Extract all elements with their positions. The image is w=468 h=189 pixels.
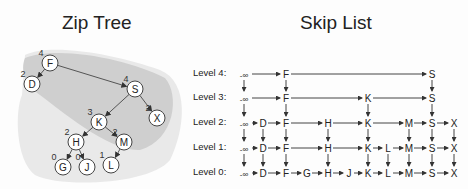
skip-node: F — [283, 168, 289, 179]
skip-node: M — [405, 118, 413, 129]
skip-node: F — [283, 69, 289, 80]
skip-node: S — [429, 118, 436, 129]
skip-node: L — [385, 168, 391, 179]
skip-node: H — [324, 143, 331, 154]
skip-node: G — [303, 168, 311, 179]
level-label: Level 3: — [193, 91, 226, 102]
skip-node: L — [385, 143, 391, 154]
skip-node: X — [451, 143, 458, 154]
level-label: Level 1: — [193, 141, 226, 152]
level-label: Level 0: — [193, 166, 226, 177]
skip-node: D — [259, 118, 266, 129]
skip-node: D — [259, 168, 266, 179]
skip-node: X — [451, 118, 458, 129]
skip-node: F — [283, 143, 289, 154]
skip-node: S — [429, 143, 436, 154]
skip-node: D — [259, 143, 266, 154]
skip-node: -∞ — [240, 145, 249, 154]
skip-node: S — [429, 93, 436, 104]
skip-node: F — [283, 93, 289, 104]
skip-node: S — [429, 168, 436, 179]
skip-node: -∞ — [240, 71, 249, 80]
skip-node: J — [347, 168, 352, 179]
skip-node: X — [451, 168, 458, 179]
level-label: Level 4: — [193, 67, 226, 78]
level-label: Level 2: — [193, 116, 226, 127]
skip-node: -∞ — [240, 95, 249, 104]
skip-node: -∞ — [240, 120, 249, 129]
skip-node: K — [365, 93, 372, 104]
skip-node: M — [405, 168, 413, 179]
skip-node: M — [405, 143, 413, 154]
skip-node: K — [365, 143, 372, 154]
skip-node: F — [283, 118, 289, 129]
skip-node: H — [324, 118, 331, 129]
skip-node: K — [365, 118, 372, 129]
skip-node: H — [324, 168, 331, 179]
skip-node: -∞ — [240, 170, 249, 179]
skip-list-diagram: -∞FS-∞FKS-∞DFHKMSX-∞DFHKLMSX-∞DFGHJKLMSX — [0, 0, 468, 189]
skip-node: S — [429, 69, 436, 80]
skip-node: K — [365, 168, 372, 179]
